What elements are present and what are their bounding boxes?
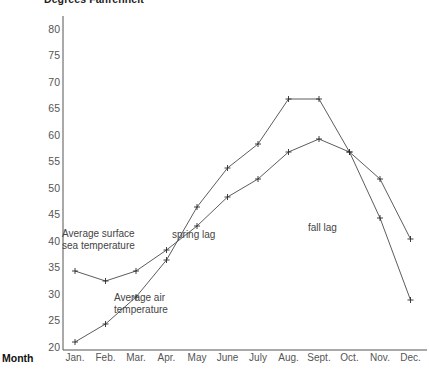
x-tick-apr: Apr. — [158, 353, 176, 363]
x-tick-dec: Dec. — [400, 353, 421, 363]
annotation-fall-lag: fall lag — [308, 222, 337, 234]
x-tick-may: May — [188, 353, 207, 363]
annotation-sea-temperature-label: Average surface sea temperature — [62, 228, 135, 251]
x-tick-june: June — [217, 353, 239, 363]
x-tick-feb: Feb. — [95, 353, 115, 363]
annotation-spring-lag: spring lag — [172, 229, 215, 241]
x-tick-mar: Mar. — [126, 353, 145, 363]
x-tick-jan: Jan. — [66, 353, 85, 363]
temperature-lag-chart: Degrees Fahrenheit 80 75 70 65 60 55 50 … — [0, 0, 429, 377]
x-tick-july: July — [249, 353, 267, 363]
x-tick-aug: Aug. — [278, 353, 299, 363]
series-markers-sea-temperature — [72, 136, 414, 284]
x-axis-title: Month — [2, 352, 34, 364]
series-line-sea-temperature — [75, 139, 411, 281]
x-tick-nov: Nov. — [370, 353, 390, 363]
x-tick-oct: Oct. — [340, 353, 358, 363]
annotation-air-temperature-label: Average air temperature — [114, 292, 168, 315]
plot-area — [0, 0, 429, 377]
x-tick-sept: Sept. — [307, 353, 330, 363]
